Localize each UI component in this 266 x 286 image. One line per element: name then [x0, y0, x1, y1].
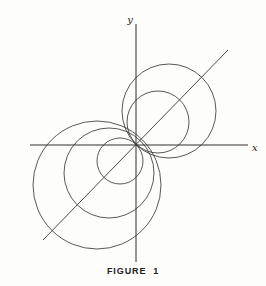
y-axis-label: y — [126, 14, 133, 25]
x-axis-label: x — [252, 142, 258, 153]
figure-container: x y FIGURE 1 — [0, 0, 266, 286]
figure-plot: x y — [0, 0, 266, 286]
figure-caption: FIGURE 1 — [0, 266, 266, 276]
